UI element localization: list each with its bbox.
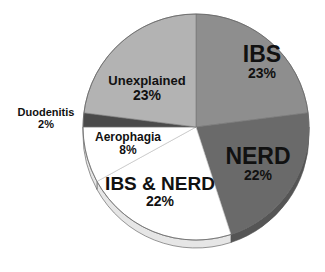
label-nerd: NERD 22% [225,144,290,183]
label-ibs-nerd-pct: 22% [105,194,215,209]
label-ibs-nerd-name: IBS & NERD [105,174,215,194]
label-unexplained: Unexplained 23% [108,74,185,102]
label-ibs-nerd: IBS & NERD 22% [105,174,215,209]
label-unexplained-pct: 23% [108,88,185,103]
label-nerd-pct: 22% [225,168,290,183]
label-ibs: IBS 23% [243,42,281,81]
pie-slice-unexplained [84,14,196,127]
label-duodenitis: Duodenitis 2% [18,107,75,130]
label-aerophagia-pct: 8% [95,144,161,157]
label-duodenitis-name: Duodenitis [18,107,75,119]
label-duodenitis-pct: 2% [18,119,75,131]
label-aerophagia-name: Aerophagia [95,131,161,144]
label-aerophagia: Aerophagia 8% [95,131,161,156]
label-nerd-name: NERD [225,144,290,168]
label-ibs-pct: 23% [243,66,281,81]
label-unexplained-name: Unexplained [108,74,185,88]
label-ibs-name: IBS [243,42,281,66]
